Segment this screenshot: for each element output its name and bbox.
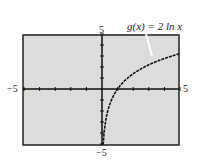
y-max-label: 5 bbox=[99, 25, 104, 35]
function-label: g(x) = 2 ln x bbox=[127, 21, 182, 32]
y-min-label: −5 bbox=[96, 148, 107, 158]
x-min-label: −5 bbox=[7, 84, 18, 94]
x-max-label: 5 bbox=[183, 84, 188, 94]
plot-frame bbox=[23, 35, 179, 145]
